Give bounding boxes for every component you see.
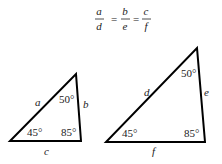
side-c-label: c — [44, 145, 49, 157]
frac3-den: f — [144, 20, 149, 32]
frac2-num: b — [122, 5, 128, 17]
proportion-equation: a d = b e = c f — [95, 5, 151, 32]
large-triangle: d e f 50° 45° 85° — [106, 48, 209, 157]
similar-triangles-diagram: a d = b e = c f a b c 50° 45° 85° d e f … — [0, 0, 222, 164]
side-b-label: b — [83, 98, 89, 110]
frac1-num: a — [96, 5, 102, 17]
small-left-angle: 45° — [27, 126, 42, 138]
small-right-angle: 85° — [61, 126, 76, 138]
large-top-angle: 50° — [181, 67, 196, 79]
frac2-den: e — [123, 20, 128, 32]
small-triangle: a b c 50° 45° 85° — [10, 74, 89, 157]
equals-2: = — [133, 13, 139, 25]
small-top-angle: 50° — [59, 93, 74, 105]
side-e-label: e — [204, 86, 209, 98]
large-right-angle: 85° — [184, 127, 199, 139]
side-a-label: a — [35, 96, 41, 108]
side-f-label: f — [152, 145, 157, 157]
side-d-label: d — [144, 86, 150, 98]
large-left-angle: 45° — [122, 127, 137, 139]
frac1-den: d — [96, 20, 102, 32]
frac3-num: c — [144, 5, 149, 17]
equals-1: = — [111, 13, 117, 25]
